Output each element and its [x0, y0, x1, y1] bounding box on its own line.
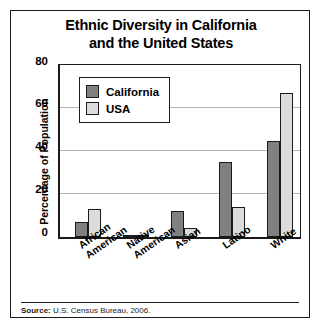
- legend-swatch-icon: [86, 85, 99, 98]
- chart-legend: CaliforniaUSA: [79, 77, 170, 123]
- source-note: Source: U.S. Census Bureau, 2006.: [21, 306, 150, 315]
- bar: [219, 162, 232, 237]
- y-tick-label: 40: [8, 141, 48, 151]
- y-tick-label: 80: [8, 56, 48, 66]
- legend-item-california: California: [86, 83, 159, 100]
- bar: [267, 141, 280, 237]
- legend-label: California: [106, 86, 159, 98]
- chart-title-line-1: Ethnic Diversity in California: [23, 17, 299, 35]
- source-label: Source:: [21, 306, 51, 315]
- legend-item-usa: USA: [86, 100, 159, 117]
- legend-swatch-icon: [86, 102, 99, 115]
- y-tick-label: 20: [8, 184, 48, 194]
- source-text: U.S. Census Bureau, 2006.: [53, 306, 150, 315]
- legend-label: USA: [106, 103, 130, 115]
- bar: [280, 93, 293, 237]
- chart-title-line-2: and the United States: [23, 35, 299, 53]
- y-tick-label: 60: [8, 98, 48, 108]
- source-divider: [21, 302, 299, 303]
- figure-frame: Ethnic Diversity in California and the U…: [10, 10, 310, 318]
- x-axis-tick-labels: AfricanAmericanNativeAmericanAsianLatino…: [58, 239, 301, 299]
- y-tick-label: 0: [8, 227, 48, 237]
- chart-title: Ethnic Diversity in California and the U…: [23, 17, 299, 52]
